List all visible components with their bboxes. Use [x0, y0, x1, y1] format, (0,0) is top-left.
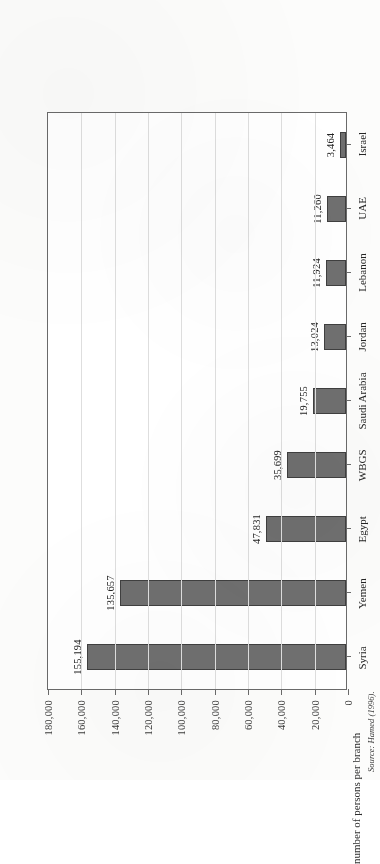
gridline [148, 113, 149, 689]
value-axis-tick-label: 140,000 [109, 700, 120, 736]
bar-slot[interactable]: 47,831 [48, 497, 346, 561]
value-axis-tick-label: 20,000 [309, 700, 320, 730]
category-axis-tick [346, 272, 351, 273]
gridline [315, 113, 316, 689]
value-axis-tick-label: 60,000 [243, 700, 254, 730]
value-axis-title: number of persons per branch [350, 733, 362, 864]
category-axis-label: Jordan [356, 322, 368, 351]
bar[interactable]: 155,194 [87, 644, 346, 670]
category-axis-label: WBGS [356, 449, 368, 481]
value-axis-tick [248, 689, 249, 695]
value-axis-tick-label: 40,000 [276, 700, 287, 730]
gridline [81, 113, 82, 689]
bar[interactable]: 13,024 [324, 324, 346, 350]
value-axis-tick [315, 689, 316, 695]
category-axis-tick [346, 336, 351, 337]
bar-value-label: 47,831 [251, 514, 262, 544]
value-axis-tick-label: 0 [343, 700, 354, 705]
bar-slot[interactable]: 3,464 [48, 113, 346, 177]
value-axis-tick [181, 689, 182, 695]
category-axis-tick [346, 592, 351, 593]
category-axis-label: UAE [356, 197, 368, 220]
bar-slot[interactable]: 11,924 [48, 241, 346, 305]
bar[interactable]: 47,831 [266, 516, 346, 542]
bar[interactable]: 11,924 [326, 260, 346, 286]
value-axis-tick [281, 689, 282, 695]
bar-series: 155,194135,65747,83135,69919,75513,02411… [48, 113, 346, 689]
bar-slot[interactable]: 135,657 [48, 561, 346, 625]
bar-slot[interactable]: 19,755 [48, 369, 346, 433]
bar[interactable]: 3,464 [340, 132, 346, 158]
category-axis-label: Saudi Arabia [356, 372, 368, 429]
value-axis-tick-label: 100,000 [176, 700, 187, 736]
value-axis-tick [81, 689, 82, 695]
bar-slot[interactable]: 35,699 [48, 433, 346, 497]
category-axis-label: Egypt [356, 516, 368, 542]
value-axis-tick-label: 120,000 [143, 700, 154, 736]
value-axis-tick-label: 160,000 [76, 700, 87, 736]
bar-slot[interactable]: 155,194 [48, 625, 346, 689]
value-axis-tick [48, 689, 49, 695]
value-axis-tick [115, 689, 116, 695]
gridline [248, 113, 249, 689]
gridline [215, 113, 216, 689]
category-axis-tick [346, 528, 351, 529]
value-axis-tick [348, 689, 349, 695]
value-axis-tick [148, 689, 149, 695]
gridline [115, 113, 116, 689]
bar[interactable]: 135,657 [120, 580, 346, 606]
category-axis-tick [346, 144, 351, 145]
category-axis-label: Syria [356, 646, 368, 669]
plot-area: 155,194135,65747,83135,69919,75513,02411… [47, 112, 347, 690]
source-note: Source: Hamed (1996). [366, 691, 376, 772]
source-note-text: Source: Hamed (1996). [366, 691, 376, 772]
bar[interactable]: 11,260 [327, 196, 346, 222]
gridline [281, 113, 282, 689]
bar-value-label: 19,755 [298, 386, 309, 416]
gridline [181, 113, 182, 689]
category-axis-tick [346, 400, 351, 401]
bar-value-label: 3,464 [325, 133, 336, 158]
bar-slot[interactable]: 13,024 [48, 305, 346, 369]
category-axis-label: Lebanon [356, 253, 368, 291]
category-axis-tick [346, 208, 351, 209]
value-axis-tick-label: 180,000 [43, 700, 54, 736]
bar[interactable]: 19,755 [313, 388, 346, 414]
category-axis-label: Yemen [356, 578, 368, 609]
bar-slot[interactable]: 11,260 [48, 177, 346, 241]
category-axis-label: Israel [356, 132, 368, 156]
category-axis-tick [346, 464, 351, 465]
category-axis-tick [346, 656, 351, 657]
value-axis-tick [215, 689, 216, 695]
bar[interactable]: 35,699 [287, 452, 346, 478]
bar-value-label: 11,924 [311, 258, 322, 288]
value-axis-tick-label: 80,000 [209, 700, 220, 730]
